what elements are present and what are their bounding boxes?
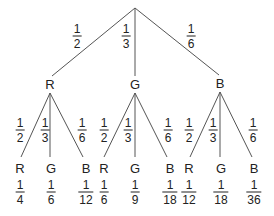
level1-branch-probability: 13 xyxy=(122,23,131,50)
denominator: 2 xyxy=(100,132,109,144)
denominator: 2 xyxy=(16,132,25,144)
numerator: 1 xyxy=(16,179,25,191)
edge-root-b xyxy=(135,8,219,75)
denominator: 3 xyxy=(209,132,218,144)
outcome-probability: 118 xyxy=(213,179,228,206)
denominator: 9 xyxy=(131,194,140,206)
numerator: 1 xyxy=(187,23,196,35)
level2-node-r: R xyxy=(99,162,108,175)
denominator: 18 xyxy=(162,194,177,206)
level2-branch-probability: 16 xyxy=(164,117,173,144)
level1-branch-probability: 12 xyxy=(73,23,82,50)
outcome-probability: 16 xyxy=(47,179,56,206)
edge-b-b xyxy=(220,92,252,157)
denominator: 12 xyxy=(78,194,93,206)
denominator: 6 xyxy=(78,132,87,144)
denominator: 2 xyxy=(185,132,194,144)
level2-branch-probability: 16 xyxy=(249,117,258,144)
numerator: 1 xyxy=(166,179,175,191)
denominator: 2 xyxy=(73,38,82,50)
numerator: 1 xyxy=(16,117,25,129)
outcome-probability: 19 xyxy=(131,179,140,206)
level1-node-b: B xyxy=(216,77,225,90)
denominator: 18 xyxy=(213,194,228,206)
numerator: 1 xyxy=(124,117,133,129)
level2-node-g: G xyxy=(46,162,56,175)
numerator: 1 xyxy=(249,117,258,129)
outcome-probability: 136 xyxy=(246,179,261,206)
numerator: 1 xyxy=(100,179,109,191)
level2-node-r: R xyxy=(184,162,193,175)
level2-node-b: B xyxy=(82,162,91,175)
denominator: 3 xyxy=(41,132,50,144)
numerator: 1 xyxy=(250,179,259,191)
outcome-probability: 112 xyxy=(181,179,196,206)
level2-branch-probability: 16 xyxy=(78,117,87,144)
denominator: 6 xyxy=(164,132,173,144)
level2-branch-probability: 12 xyxy=(185,117,194,144)
numerator: 1 xyxy=(185,179,194,191)
numerator: 1 xyxy=(209,117,218,129)
numerator: 1 xyxy=(47,179,56,191)
numerator: 1 xyxy=(73,23,82,35)
level2-branch-probability: 13 xyxy=(209,117,218,144)
numerator: 1 xyxy=(131,179,140,191)
level2-branch-probability: 12 xyxy=(16,117,25,144)
level2-node-b: B xyxy=(250,162,259,175)
numerator: 1 xyxy=(41,117,50,129)
level2-node-r: R xyxy=(15,162,24,175)
numerator: 1 xyxy=(78,117,87,129)
numerator: 1 xyxy=(122,23,131,35)
outcome-probability: 118 xyxy=(162,179,177,206)
numerator: 1 xyxy=(185,117,194,129)
level1-node-r: R xyxy=(45,78,54,91)
level1-node-g: G xyxy=(130,78,140,91)
denominator: 4 xyxy=(16,194,25,206)
denominator: 6 xyxy=(249,132,258,144)
denominator: 6 xyxy=(187,38,196,50)
level2-node-g: G xyxy=(130,162,140,175)
level2-branch-probability: 13 xyxy=(124,117,133,144)
level2-node-b: B xyxy=(166,162,175,175)
outcome-probability: 112 xyxy=(78,179,93,206)
edge-g-b xyxy=(135,93,167,157)
level2-branch-probability: 12 xyxy=(100,117,109,144)
numerator: 1 xyxy=(217,179,226,191)
numerator: 1 xyxy=(82,179,91,191)
level1-branch-probability: 16 xyxy=(187,23,196,50)
level2-branch-probability: 13 xyxy=(41,117,50,144)
numerator: 1 xyxy=(164,117,173,129)
outcome-probability: 16 xyxy=(100,179,109,206)
denominator: 6 xyxy=(100,194,109,206)
denominator: 36 xyxy=(246,194,261,206)
denominator: 3 xyxy=(122,38,131,50)
numerator: 1 xyxy=(100,117,109,129)
outcome-probability: 14 xyxy=(16,179,25,206)
level2-node-g: G xyxy=(216,162,226,175)
denominator: 3 xyxy=(124,132,133,144)
denominator: 6 xyxy=(47,194,56,206)
denominator: 12 xyxy=(181,194,196,206)
